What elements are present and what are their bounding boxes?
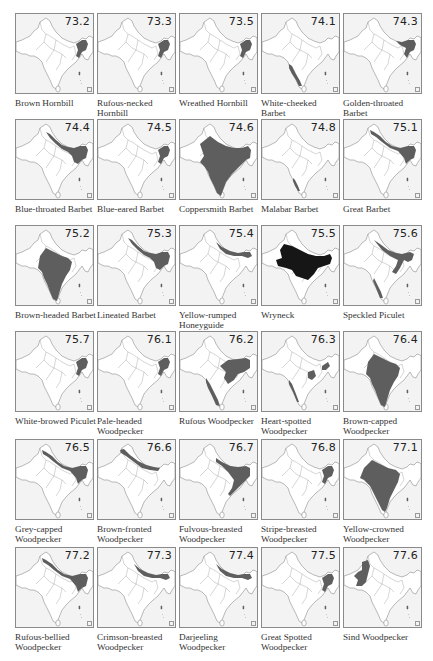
species-map-cell-76-7: 76.7 Fulvous-breasted Woodpecker <box>179 439 258 544</box>
species-label: Blue-eared Barbet <box>97 204 179 214</box>
corner-mark <box>169 621 174 626</box>
range-map-panel: 76.7 <box>179 439 258 520</box>
range-map-panel: 73.5 <box>179 13 258 94</box>
plate-number: 74.4 <box>65 121 90 134</box>
corner-mark <box>333 513 338 518</box>
range-map-panel: 76.1 <box>97 331 176 412</box>
corner-mark <box>169 87 174 92</box>
species-map-cell-75-4: 75.4 Yellow-rumped Honeyguide <box>179 225 258 330</box>
range-map-panel: 75.7 <box>15 331 94 412</box>
range-map-panel: 76.6 <box>97 439 176 520</box>
range-map-panel: 76.8 <box>261 439 340 520</box>
species-map-cell-74-3: 74.3 Golden-throated Barbet <box>343 13 422 118</box>
corner-mark <box>169 513 174 518</box>
species-label: Brown-headed Barbet <box>15 310 97 320</box>
species-map-cell-75-5: 75.5 Wryneck <box>261 225 340 320</box>
plate-number: 76.5 <box>65 441 90 454</box>
corner-mark <box>251 87 256 92</box>
species-map-cell-73-5: 73.5 Wreathed Hornbill <box>179 13 258 108</box>
plate-number: 76.7 <box>229 441 254 454</box>
corner-mark <box>87 513 92 518</box>
plate-number: 76.6 <box>147 441 172 454</box>
species-map-cell-76-2: 76.2 Rufous Woodpecker <box>179 331 258 426</box>
range-map-panel: 77.4 <box>179 547 258 628</box>
plate-number: 77.3 <box>147 549 172 562</box>
range-map-panel: 74.3 <box>343 13 422 94</box>
range-map-panel: 74.4 <box>15 119 94 200</box>
plate-number: 76.2 <box>229 333 254 346</box>
corner-mark <box>251 405 256 410</box>
corner-mark <box>415 621 420 626</box>
species-label: Rufous Woodpecker <box>179 416 261 426</box>
species-map-cell-73-2: 73.2 Brown Hornbill <box>15 13 94 108</box>
species-label: Darjeeling Woodpecker <box>179 632 261 652</box>
species-map-cell-74-8: 74.8 Malabar Barbet <box>261 119 340 214</box>
species-label: Great Barbet <box>343 204 425 214</box>
range-map-panel: 77.3 <box>97 547 176 628</box>
species-label: Yellow-rumped Honeyguide <box>179 310 261 330</box>
range-map-panel: 77.6 <box>343 547 422 628</box>
corner-mark <box>251 193 256 198</box>
species-map-cell-75-1: 75.1 Great Barbet <box>343 119 422 214</box>
plate-number: 77.4 <box>229 549 254 562</box>
species-label: Pale-headed Woodpecker <box>97 416 179 436</box>
plate-number: 74.5 <box>147 121 172 134</box>
species-label: Speckled Piculet <box>343 310 425 320</box>
plate-number: 74.8 <box>311 121 336 134</box>
plate-number: 77.6 <box>393 549 418 562</box>
species-map-cell-77-3: 77.3 Crimson-breasted Woodpecker <box>97 547 176 652</box>
corner-mark <box>87 405 92 410</box>
corner-mark <box>415 87 420 92</box>
range-map-panel: 77.5 <box>261 547 340 628</box>
range-map-panel: 77.1 <box>343 439 422 520</box>
range-map-panel: 75.5 <box>261 225 340 306</box>
plate-number: 74.1 <box>311 15 336 28</box>
corner-mark <box>169 299 174 304</box>
species-label: Rufous-necked Hornbill <box>97 98 179 118</box>
species-label: Sind Woodpecker <box>343 632 425 642</box>
species-map-cell-76-4: 76.4 Brown-capped Woodpecker <box>343 331 422 436</box>
plate-number: 73.2 <box>65 15 90 28</box>
plate-number: 74.3 <box>393 15 418 28</box>
plate-number: 76.3 <box>311 333 336 346</box>
species-label: Malabar Barbet <box>261 204 343 214</box>
range-map-panel: 76.4 <box>343 331 422 412</box>
species-label: Stripe-breasted Woodpecker <box>261 524 343 544</box>
plate-number: 75.3 <box>147 227 172 240</box>
plate-number: 75.4 <box>229 227 254 240</box>
corner-mark <box>87 87 92 92</box>
species-map-cell-77-6: 77.6 Sind Woodpecker <box>343 547 422 642</box>
plate-number: 77.2 <box>65 549 90 562</box>
species-label: White-browed Piculet <box>15 416 97 426</box>
corner-mark <box>333 299 338 304</box>
species-map-cell-76-3: 76.3 Heart-spotted Woodpecker <box>261 331 340 436</box>
species-label: Heart-spotted Woodpecker <box>261 416 343 436</box>
range-map-panel: 77.2 <box>15 547 94 628</box>
corner-mark <box>251 621 256 626</box>
corner-mark <box>87 621 92 626</box>
range-map-panel: 73.2 <box>15 13 94 94</box>
species-map-cell-74-4: 74.4 Blue-throated Barbet <box>15 119 94 214</box>
plate-number: 74.6 <box>229 121 254 134</box>
species-label: Grey-capped Woodpecker <box>15 524 97 544</box>
species-map-cell-75-3: 75.3 Lineated Barbet <box>97 225 176 320</box>
corner-mark <box>333 87 338 92</box>
corner-mark <box>333 405 338 410</box>
plate-number: 75.6 <box>393 227 418 240</box>
range-map-panel: 75.2 <box>15 225 94 306</box>
species-label: Coppersmith Barbet <box>179 204 261 214</box>
species-map-cell-76-8: 76.8 Stripe-breasted Woodpecker <box>261 439 340 544</box>
species-label: Great Spotted Woodpecker <box>261 632 343 652</box>
plate-number: 76.8 <box>311 441 336 454</box>
plate-number: 75.1 <box>393 121 418 134</box>
species-map-cell-73-3: 73.3 Rufous-necked Hornbill <box>97 13 176 118</box>
corner-mark <box>169 405 174 410</box>
species-label: Wreathed Hornbill <box>179 98 261 108</box>
species-label: Brown Hornbill <box>15 98 97 108</box>
species-map-cell-77-1: 77.1 Yellow-crowned Woodpecker <box>343 439 422 544</box>
species-map-cell-77-2: 77.2 Rufous-bellied Woodpecker <box>15 547 94 652</box>
corner-mark <box>87 193 92 198</box>
range-map-panel: 75.3 <box>97 225 176 306</box>
range-map-panel: 76.2 <box>179 331 258 412</box>
species-map-cell-74-1: 74.1 White-cheeked Barbet <box>261 13 340 118</box>
